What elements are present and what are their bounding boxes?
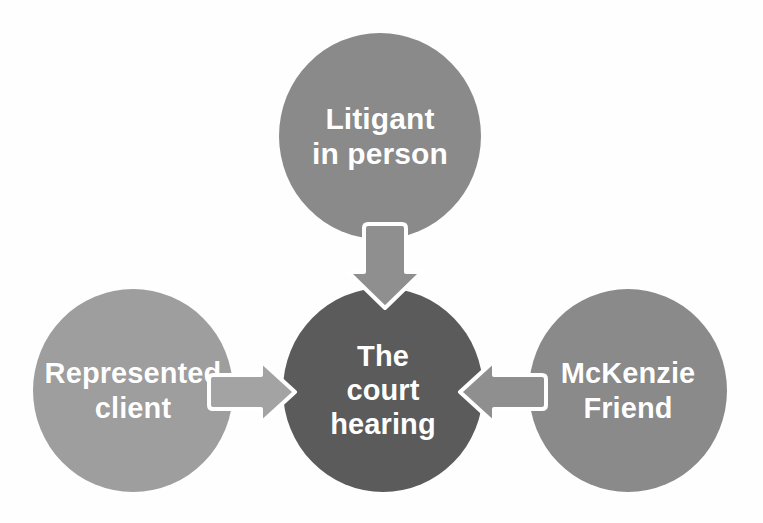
node-court-hearing-label: Thecourthearing (324, 339, 441, 442)
court-hearing-diagram: Litigantin person Representedclient McKe… (0, 0, 763, 523)
node-represented-client-label: Representedclient (39, 356, 228, 424)
arrow-down-icon (330, 222, 440, 312)
node-court-hearing-line1: The (357, 340, 409, 372)
node-court-hearing-line2: court (346, 374, 419, 406)
node-litigant-in-person-line2: in person (312, 137, 448, 170)
node-mckenzie-friend-line1: McKenzie (561, 357, 696, 389)
node-litigant-in-person-label: Litigantin person (306, 101, 454, 172)
node-court-hearing[interactable]: Thecourthearing (283, 288, 483, 492)
node-represented-client-line1: Represented (45, 357, 222, 389)
node-mckenzie-friend-label: McKenzieFriend (555, 356, 702, 424)
node-litigant-in-person-line1: Litigant (325, 102, 434, 135)
node-mckenzie-friend[interactable]: McKenzieFriend (529, 289, 727, 492)
node-represented-client[interactable]: Representedclient (33, 289, 233, 492)
node-litigant-in-person[interactable]: Litigantin person (279, 33, 481, 239)
arrow-left-icon (455, 355, 550, 430)
arrow-right-icon (205, 355, 300, 430)
node-represented-client-line2: client (95, 392, 171, 424)
node-court-hearing-line3: hearing (330, 408, 435, 440)
node-mckenzie-friend-line2: Friend (583, 392, 672, 424)
